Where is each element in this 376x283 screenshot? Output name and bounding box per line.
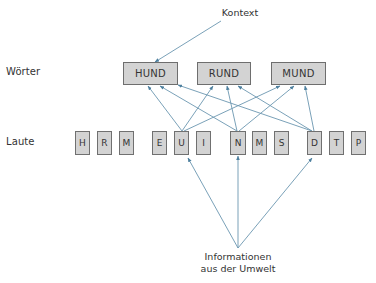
sounds-row-label: Laute <box>6 136 35 147</box>
edge-d-rund <box>238 86 312 131</box>
words-row-label: Wörter <box>6 66 40 77</box>
sound-node-p: P <box>351 131 366 155</box>
sound-node-t: T <box>329 131 344 155</box>
word-node-hund: HUND <box>123 62 178 85</box>
edge-d-mund <box>305 86 314 131</box>
sound-node-m-2: M <box>252 131 267 155</box>
sound-node-n: N <box>230 131 246 155</box>
sound-node-h: H <box>75 131 90 155</box>
word-node-rund: RUND <box>197 62 251 85</box>
edge-env-d <box>238 158 312 248</box>
environment-label-line1: Informationen <box>188 251 288 263</box>
sound-node-s: S <box>274 131 289 155</box>
diagram-canvas: Kontext Wörter Laute HUND RUND MUND H R … <box>0 0 376 283</box>
edge-u-hund <box>148 86 182 131</box>
environment-label: Informationen aus der Umwelt <box>188 251 288 275</box>
edge-n-rund <box>227 86 237 131</box>
edge-env-u <box>188 158 238 248</box>
environment-label-line2: aus der Umwelt <box>188 263 288 275</box>
sound-node-d: D <box>307 131 322 155</box>
sound-node-u: U <box>174 131 189 155</box>
sound-node-i: I <box>196 131 211 155</box>
edge-kontext-hund <box>155 21 221 62</box>
context-label: Kontext <box>218 7 262 19</box>
sound-node-r: R <box>97 131 112 155</box>
sound-node-m: M <box>119 131 134 155</box>
word-node-mund: MUND <box>271 62 326 85</box>
sound-node-e: E <box>152 131 167 155</box>
